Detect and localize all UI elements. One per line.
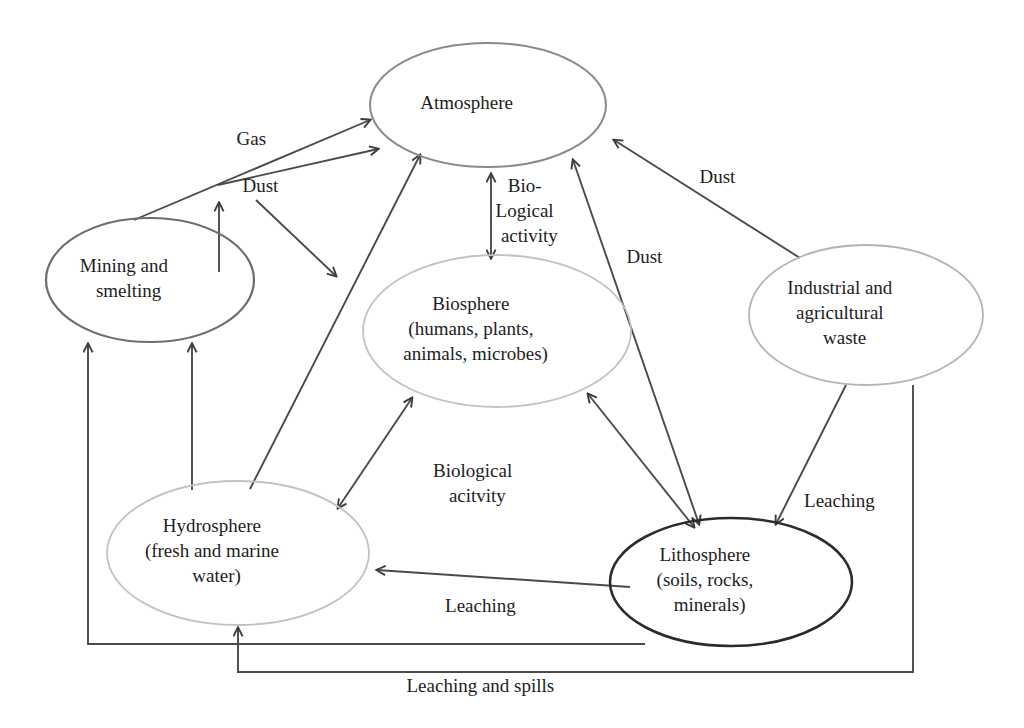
edge-label-bioactivity-line-0: Bio- <box>508 175 542 196</box>
node-biosphere-line-0: Biosphere <box>432 293 509 314</box>
node-biosphere[interactable]: Biosphere (humans, plants, animals, micr… <box>363 255 631 407</box>
node-mining-line-1: smelting <box>96 280 162 301</box>
cycle-diagram: Atmosphere Mining and smelting Biosphere… <box>0 0 1024 728</box>
node-lithosphere[interactable]: Lithosphere (soils, rocks, minerals) <box>610 518 852 646</box>
edge-label-gas: Gas <box>237 128 300 149</box>
edge-label-leaching-bottom-line-0: Leaching <box>445 595 516 616</box>
node-biosphere-label: Biosphere (humans, plants, animals, micr… <box>403 293 590 365</box>
edge-label-gas-line-0: Gas <box>237 128 267 149</box>
edge-label-biological-acitvity: Biological acitvity <box>433 460 555 506</box>
edge-label-leaching-spills-line-0: Leaching and spills <box>407 675 555 696</box>
node-industrial-line-1: agricultural <box>796 302 884 323</box>
node-lithosphere-line-2: minerals) <box>674 594 746 616</box>
edge-label-bioacitvity-line-0: Biological <box>433 460 512 481</box>
edge-label-dust-lithosphere: Dust <box>626 246 695 267</box>
node-hydrosphere-line-2: water) <box>192 565 241 587</box>
edge-biosphere-lithosphere[interactable] <box>588 394 694 527</box>
edge-lithosphere-spills-to-mining[interactable] <box>88 344 645 644</box>
node-atmosphere[interactable]: Atmosphere <box>370 43 606 167</box>
node-mining-line-0: Mining and <box>80 255 169 276</box>
edge-label-bioacitvity-line-1: acitvity <box>449 485 506 506</box>
node-biosphere-line-1: (humans, plants, <box>408 318 533 340</box>
node-industrial-line-2: waste <box>823 327 866 348</box>
node-atmosphere-label: Atmosphere <box>420 92 556 113</box>
edge-label-dust-lithosphere-line-0: Dust <box>626 246 663 267</box>
edge-atmosphere-dust-down[interactable] <box>256 200 336 276</box>
edge-label-biological-activity: Bio- Logical activity <box>496 175 597 246</box>
node-lithosphere-label: Lithosphere (soils, rocks, minerals) <box>657 544 806 616</box>
edge-label-leaching-bottom: Leaching <box>445 595 549 616</box>
node-biosphere-line-2: animals, microbes) <box>403 343 548 365</box>
node-industrial-label: Industrial and agricultural waste <box>787 277 944 348</box>
node-industrial-line-0: Industrial and <box>787 277 893 298</box>
edge-label-leaching-and-spills: Leaching and spills <box>407 675 588 696</box>
edge-biosphere-hydrosphere[interactable] <box>338 398 412 508</box>
node-hydrosphere-line-1: (fresh and marine <box>145 540 279 562</box>
edge-label-leaching-right-line-0: Leaching <box>804 490 875 511</box>
edge-label-bioactivity-line-1: Logical <box>496 200 554 221</box>
node-lithosphere-line-0: Lithosphere <box>659 544 750 565</box>
diagram-canvas-root: Atmosphere Mining and smelting Biosphere… <box>0 0 1024 728</box>
edge-label-leaching-right: Leaching <box>804 490 908 511</box>
node-mining-label: Mining and smelting <box>80 255 220 301</box>
node-mining-and-smelting[interactable]: Mining and smelting <box>46 218 254 342</box>
edge-label-bioactivity-line-2: activity <box>501 225 558 246</box>
edge-label-dust-industrial-line-0: Dust <box>699 166 736 187</box>
node-hydrosphere-label: Hydrosphere (fresh and marine water) <box>145 515 331 587</box>
node-lithosphere-line-1: (soils, rocks, <box>657 569 754 591</box>
edge-lithosphere-leaching-hydrosphere[interactable] <box>377 570 630 587</box>
nodes-layer: Atmosphere Mining and smelting Biosphere… <box>46 43 983 646</box>
edge-label-dust-mining: Dust <box>242 175 311 196</box>
edge-label-dust-industrial: Dust <box>699 166 768 187</box>
edge-labels-layer: Gas Dust Bio- Logical activity Dust Dust… <box>237 128 908 696</box>
node-hydrosphere-line-0: Hydrosphere <box>163 515 261 536</box>
edge-hydrosphere-to-atmosphere[interactable] <box>250 155 420 489</box>
edge-label-dust-mining-line-0: Dust <box>242 175 279 196</box>
node-atmosphere-line-0: Atmosphere <box>420 92 513 113</box>
node-hydrosphere[interactable]: Hydrosphere (fresh and marine water) <box>107 481 369 625</box>
node-industrial-and-agricultural-waste[interactable]: Industrial and agricultural waste <box>749 245 983 385</box>
edge-industrial-dust-to-atmosphere[interactable] <box>614 140 800 258</box>
